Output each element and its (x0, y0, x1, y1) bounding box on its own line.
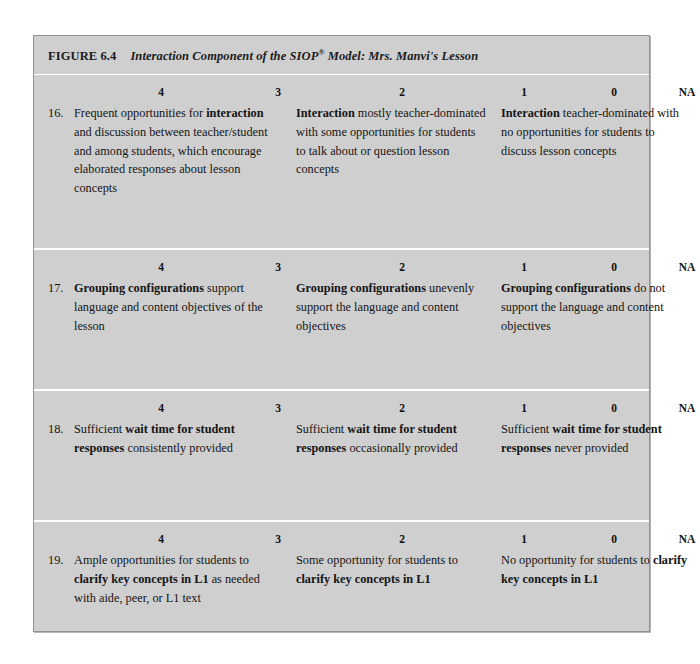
emphasis-text: Interaction (501, 106, 560, 120)
scale-value-4[interactable]: 4 (151, 261, 171, 273)
scale-value-0[interactable]: 0 (604, 86, 624, 98)
row-divider (34, 248, 649, 250)
rubric-cell-score-2: Sufficient wait time for student respons… (296, 420, 488, 457)
emphasis-text: Grouping configurations (74, 281, 204, 295)
scale-value-1[interactable]: 1 (514, 261, 534, 273)
rubric-cell-score-0: Interaction teacher-dominated with no op… (501, 104, 693, 160)
scale-value-4[interactable]: 4 (151, 402, 171, 414)
scale-value-2[interactable]: 2 (392, 86, 412, 98)
scale-header: 43210NA (34, 533, 649, 549)
rubric-row-columns: 18.Sufficient wait time for student resp… (34, 420, 649, 508)
row-divider (34, 389, 649, 391)
figure-title: FIGURE 6.4Interaction Component of the S… (34, 36, 649, 74)
scale-value-2[interactable]: 2 (392, 533, 412, 545)
scale-value-0[interactable]: 0 (604, 261, 624, 273)
rubric-row-columns: 19.Ample opportunities for students to c… (34, 551, 649, 647)
rubric-cell-text: Interaction teacher-dominated with no op… (501, 104, 693, 160)
scale-value-0[interactable]: 0 (604, 402, 624, 414)
rubric-cell-text: Sufficient wait time for student respons… (74, 420, 274, 457)
scale-header: 43210NA (34, 86, 649, 102)
plain-text: occasionally provided (346, 441, 457, 455)
rubric-cell-text: Grouping configurations unevenly support… (296, 279, 488, 335)
rubric-cell-text: Sufficient wait time for student respons… (501, 420, 693, 457)
scale-value-2[interactable]: 2 (392, 402, 412, 414)
scale-value-1[interactable]: 1 (514, 533, 534, 545)
rubric-cell-score-0: No opportunity for students to clarify k… (501, 551, 693, 588)
emphasis-text: Interaction (296, 106, 355, 120)
rubric-cell-score-4: 17.Grouping configurations support langu… (48, 279, 274, 335)
emphasis-text: Grouping configurations (296, 281, 426, 295)
scale-value-na[interactable]: NA (674, 402, 700, 414)
figure-caption: Interaction Component of the SIOP® Model… (130, 49, 478, 63)
plain-text: Ample opportunities for students to (74, 553, 249, 567)
scale-value-3[interactable]: 3 (268, 261, 288, 273)
rubric-cell-score-2: Grouping configurations unevenly support… (296, 279, 488, 335)
plain-text: Frequent opportunities for (74, 106, 206, 120)
scale-header: 43210NA (34, 261, 649, 277)
rubric-row: 43210NA19.Ample opportunities for studen… (34, 533, 649, 659)
item-number: 18. (48, 420, 70, 439)
rubric-cell-text: No opportunity for students to clarify k… (501, 551, 693, 588)
rubric-cell-score-4: 18.Sufficient wait time for student resp… (48, 420, 274, 457)
plain-text: Sufficient (74, 422, 125, 436)
rubric-cell-score-4: 16.Frequent opportunities for interactio… (48, 104, 274, 197)
plain-text: Sufficient (501, 422, 552, 436)
rubric-cell-text: Grouping configurations support language… (74, 279, 274, 335)
rubric-cell-text: Sufficient wait time for student respons… (296, 420, 488, 457)
scale-value-na[interactable]: NA (674, 261, 700, 273)
emphasis-text: interaction (206, 106, 263, 120)
plain-text: never provided (551, 441, 628, 455)
scale-value-1[interactable]: 1 (514, 402, 534, 414)
item-number: 16. (48, 104, 70, 123)
rubric-rows: 43210NA16.Frequent opportunities for int… (34, 86, 649, 659)
figure-label: FIGURE 6.4 (48, 49, 116, 63)
rubric-cell-text: Interaction mostly teacher-dominated wit… (296, 104, 488, 179)
rubric-cell-score-4: 19.Ample opportunities for students to c… (48, 551, 274, 607)
plain-text: consistently provided (124, 441, 233, 455)
scale-value-4[interactable]: 4 (151, 86, 171, 98)
rubric-cell-score-2: Some opportunity for students to clarify… (296, 551, 488, 588)
scale-value-3[interactable]: 3 (268, 86, 288, 98)
scale-value-1[interactable]: 1 (514, 86, 534, 98)
scale-value-na[interactable]: NA (674, 533, 700, 545)
plain-text: Some opportunity for students to (296, 553, 458, 567)
figure-box: FIGURE 6.4Interaction Component of the S… (33, 35, 650, 632)
plain-text: and discussion between teacher/student a… (74, 125, 268, 195)
rubric-row: 43210NA17.Grouping configurations suppor… (34, 261, 649, 389)
scale-value-4[interactable]: 4 (151, 533, 171, 545)
scale-value-2[interactable]: 2 (392, 261, 412, 273)
rubric-row-columns: 17.Grouping configurations support langu… (34, 279, 649, 377)
row-divider (34, 520, 649, 522)
rubric-cell-score-2: Interaction mostly teacher-dominated wit… (296, 104, 488, 179)
plain-text: No opportunity for students to (501, 553, 653, 567)
item-number: 19. (48, 551, 70, 570)
rubric-cell-text: Grouping configurations do not support t… (501, 279, 693, 335)
rubric-cell-score-0: Sufficient wait time for student respons… (501, 420, 693, 457)
emphasis-text: clarify key concepts in L1 (296, 572, 431, 586)
rubric-row: 43210NA16.Frequent opportunities for int… (34, 86, 649, 248)
scale-value-na[interactable]: NA (674, 86, 700, 98)
scale-header: 43210NA (34, 402, 649, 418)
emphasis-text: Grouping configurations (501, 281, 631, 295)
emphasis-text: clarify key concepts in L1 (74, 572, 209, 586)
plain-text: Sufficient (296, 422, 347, 436)
rubric-cell-score-0: Grouping configurations do not support t… (501, 279, 693, 335)
rubric-cell-text: Some opportunity for students to clarify… (296, 551, 488, 588)
scale-value-0[interactable]: 0 (604, 533, 624, 545)
rubric-row: 43210NA18.Sufficient wait time for stude… (34, 402, 649, 520)
scale-value-3[interactable]: 3 (268, 402, 288, 414)
rubric-row-columns: 16.Frequent opportunities for interactio… (34, 104, 649, 236)
rubric-cell-text: Frequent opportunities for interaction a… (74, 104, 274, 197)
rubric-cell-text: Ample opportunities for students to clar… (74, 551, 274, 607)
figure-caption-prefix: Interaction Component of the SIOP (130, 49, 318, 63)
scale-value-3[interactable]: 3 (268, 533, 288, 545)
title-divider (34, 74, 649, 75)
figure-caption-suffix: Model: Mrs. Manvi's Lesson (325, 49, 479, 63)
item-number: 17. (48, 279, 70, 298)
